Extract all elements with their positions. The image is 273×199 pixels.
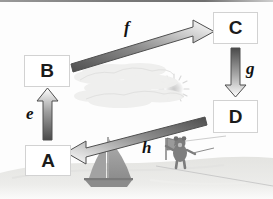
- node-b[interactable]: B: [24, 55, 70, 87]
- diagram-canvas: A B C D e f g h: [0, 0, 273, 199]
- node-a-label: A: [41, 150, 55, 172]
- node-c-label: C: [229, 17, 243, 39]
- node-b-label: B: [40, 60, 54, 82]
- edge-label-h: h: [142, 139, 151, 156]
- node-d[interactable]: D: [213, 100, 258, 133]
- edge-label-e: e: [26, 105, 34, 122]
- node-d-label: D: [229, 106, 243, 128]
- node-a[interactable]: A: [25, 145, 71, 176]
- node-c[interactable]: C: [213, 12, 258, 44]
- edge-label-f: f: [124, 19, 130, 36]
- edge-label-g: g: [246, 60, 255, 77]
